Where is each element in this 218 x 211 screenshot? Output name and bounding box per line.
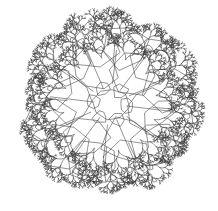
fractal-rosette-figure [0, 0, 218, 211]
figure-canvas [0, 0, 218, 211]
